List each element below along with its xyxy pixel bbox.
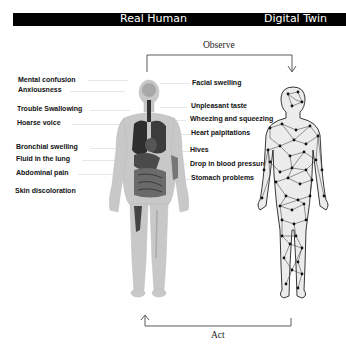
digital-twin-figure xyxy=(0,0,346,350)
